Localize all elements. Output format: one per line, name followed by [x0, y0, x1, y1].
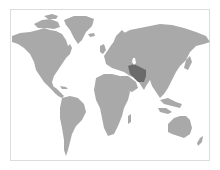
region-arctic-islands: [34, 19, 60, 29]
continent-australia: [168, 116, 192, 138]
region-arctic-islands-2: [44, 14, 58, 19]
region-caribbean: [60, 86, 68, 89]
region-indonesia: [158, 108, 172, 114]
region-madagascar: [128, 114, 131, 124]
region-southeast-asia-islands: [160, 98, 182, 108]
region-british-isles: [100, 44, 106, 54]
continent-north-america: [12, 28, 72, 94]
continent-south-america: [60, 96, 86, 156]
region-new-zealand: [197, 136, 203, 146]
region-greenland: [64, 16, 94, 44]
world-map: [0, 0, 220, 170]
region-iceland: [88, 33, 95, 37]
